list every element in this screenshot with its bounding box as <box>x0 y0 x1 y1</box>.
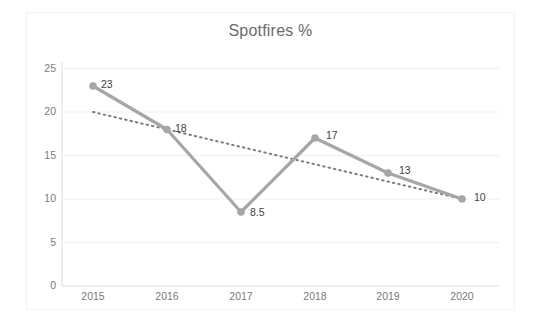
data-point-markers <box>89 82 466 216</box>
data-label-2016: 18 <box>175 122 187 134</box>
y-axis-tick-25: 25 <box>22 62 56 74</box>
x-axis-tick-2016: 2016 <box>137 290 197 302</box>
y-axis-tick-0: 0 <box>22 279 56 291</box>
data-label-2019: 13 <box>399 164 411 176</box>
data-label-2017: 8.5 <box>250 206 265 218</box>
chart-screenshot: Spotfires % 25 20 15 10 5 0 2015 2016 20… <box>0 0 541 330</box>
x-axis-tick-2015: 2015 <box>63 290 123 302</box>
line-chart-plot <box>0 0 541 330</box>
y-axis-tick-10: 10 <box>22 192 56 204</box>
x-axis-tick-2020: 2020 <box>432 290 492 302</box>
data-line-series <box>93 86 462 212</box>
x-axis-tick-2017: 2017 <box>211 290 271 302</box>
x-axis-tick-2018: 2018 <box>285 290 345 302</box>
gridlines <box>62 69 500 287</box>
y-axis-tick-20: 20 <box>22 105 56 117</box>
y-axis-tick-15: 15 <box>22 149 56 161</box>
y-axis-tick-5: 5 <box>22 236 56 248</box>
data-label-2015: 23 <box>101 78 113 90</box>
data-label-2018: 17 <box>326 129 338 141</box>
data-label-2020: 10 <box>474 191 486 203</box>
x-axis-tick-2019: 2019 <box>358 290 418 302</box>
